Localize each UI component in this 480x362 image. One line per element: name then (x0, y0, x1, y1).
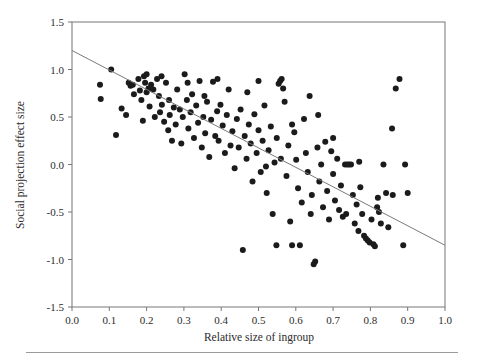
data-point (355, 228, 361, 234)
y-axis-ticks (68, 22, 72, 307)
data-point (224, 112, 230, 118)
data-point (173, 122, 179, 128)
data-point (157, 109, 163, 115)
data-point (113, 132, 119, 138)
data-point (202, 130, 208, 136)
data-point (322, 139, 328, 145)
data-point (138, 97, 144, 103)
data-point (258, 169, 264, 175)
data-point (152, 114, 158, 120)
data-point (348, 162, 354, 168)
data-point (147, 104, 153, 110)
data-point (142, 80, 148, 86)
data-point (312, 258, 318, 264)
data-point (260, 138, 266, 144)
data-point (226, 86, 232, 92)
data-point (240, 247, 246, 253)
data-point (159, 102, 165, 108)
data-point (165, 127, 171, 133)
data-point (396, 76, 402, 82)
data-point (285, 143, 291, 149)
data-point (261, 103, 267, 109)
data-point (330, 135, 336, 141)
data-point (135, 76, 141, 82)
data-point (326, 217, 332, 223)
data-point (330, 171, 336, 177)
data-point (318, 162, 324, 168)
data-point (169, 138, 175, 144)
data-point (369, 217, 375, 223)
data-point (189, 91, 195, 97)
data-point (140, 118, 146, 124)
data-point (119, 105, 125, 111)
data-point (97, 82, 103, 88)
data-point (238, 106, 244, 112)
x-axis-tick-labels: 0.00.10.20.30.40.50.60.70.80.91.0 (65, 314, 452, 326)
data-point (246, 122, 252, 128)
data-point (375, 195, 381, 201)
data-point (163, 80, 169, 86)
data-point (184, 97, 190, 103)
x-tick-label: 0.9 (401, 314, 415, 326)
data-point (201, 93, 207, 99)
data-point (301, 116, 307, 122)
data-point (244, 156, 250, 162)
data-point (137, 87, 143, 93)
data-point (402, 162, 408, 168)
data-point (251, 111, 257, 117)
data-point (228, 143, 234, 149)
data-point (273, 242, 279, 248)
data-point (182, 71, 188, 77)
plot-frame (72, 22, 445, 307)
data-point (390, 192, 396, 198)
data-point (320, 204, 326, 210)
x-tick-label: 0.6 (289, 314, 303, 326)
data-point (299, 200, 305, 206)
data-point (254, 150, 260, 156)
data-point (357, 184, 363, 190)
data-point (287, 219, 293, 225)
data-point (293, 157, 299, 163)
data-point (272, 160, 278, 166)
data-point (372, 243, 378, 249)
data-point (174, 86, 180, 92)
data-point (283, 173, 289, 179)
data-point (171, 105, 177, 111)
data-point (314, 144, 320, 150)
data-point (242, 133, 248, 139)
data-point (307, 93, 313, 99)
x-tick-label: 0.4 (214, 314, 228, 326)
data-point (280, 86, 286, 92)
data-point (405, 190, 411, 196)
data-point (234, 116, 240, 122)
data-point (232, 165, 238, 171)
data-point (338, 182, 344, 188)
data-point (393, 86, 399, 92)
data-point (324, 188, 330, 194)
data-point (167, 112, 173, 118)
data-point (214, 76, 220, 82)
data-point (98, 96, 104, 102)
x-tick-label: 0.1 (102, 314, 116, 326)
data-point (383, 190, 389, 196)
data-point (268, 124, 274, 130)
y-tick-label: 1.0 (50, 64, 64, 76)
data-point (178, 141, 184, 147)
data-point (336, 207, 342, 213)
data-point (131, 91, 137, 97)
x-tick-label: 0.3 (177, 314, 191, 326)
x-tick-label: 0.8 (364, 314, 378, 326)
data-point (334, 156, 340, 162)
y-axis-tick-labels: 1.51.00.50.0-0.5-1.0-1.5 (47, 16, 65, 313)
data-point (303, 150, 309, 156)
data-point (380, 162, 386, 168)
y-tick-label: 1.5 (50, 16, 64, 28)
plot-border (72, 22, 445, 307)
data-point (206, 154, 212, 160)
data-point (244, 89, 250, 95)
x-tick-label: 0.2 (140, 314, 154, 326)
data-point (332, 198, 338, 204)
data-point (217, 102, 223, 108)
data-point (289, 242, 295, 248)
data-point (315, 112, 321, 118)
